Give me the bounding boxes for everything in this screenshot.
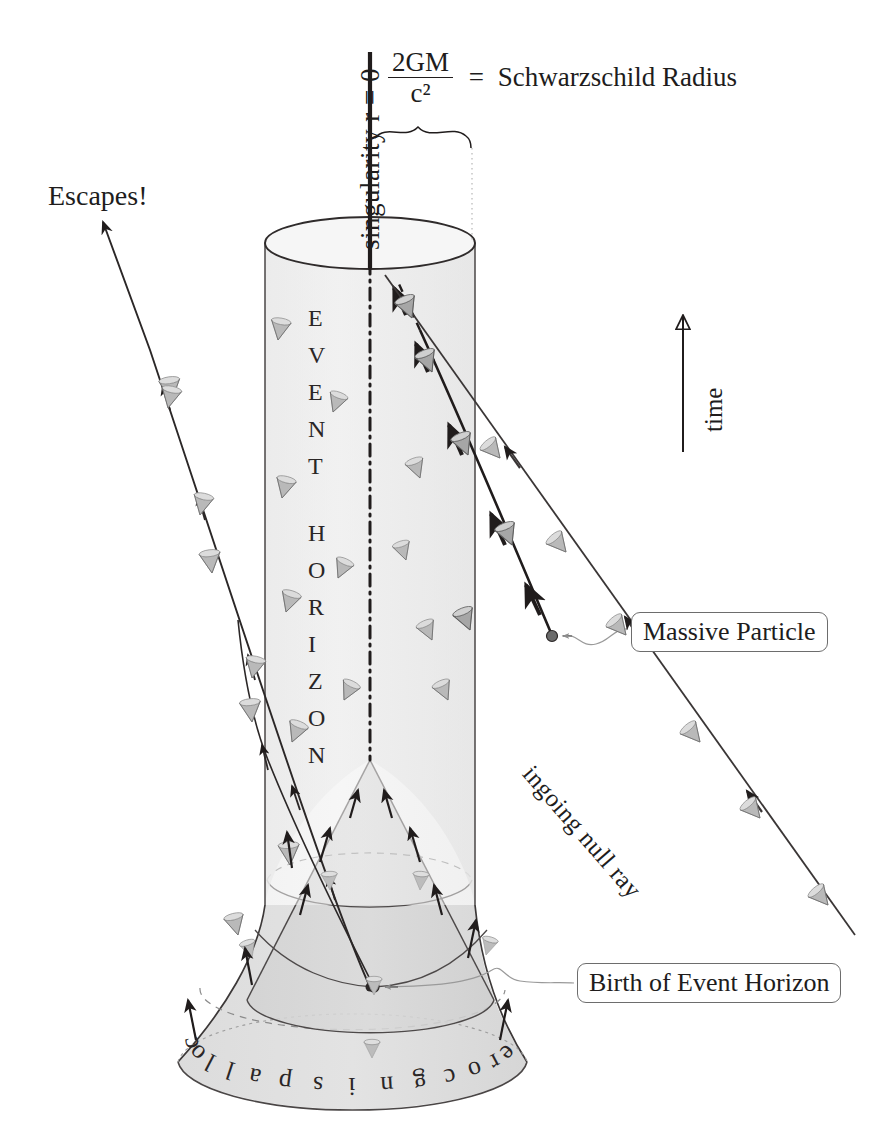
event-horizon-letter: E (308, 379, 323, 406)
event-horizon-letter: Z (308, 668, 323, 695)
schwarzschild-formula: 2GM c² = Schwarzschild Radius (388, 48, 737, 107)
formula-numerator: 2GM (388, 48, 453, 77)
event-horizon-letter: H (308, 520, 325, 547)
event-horizon-letter: V (308, 342, 325, 369)
event-horizon-letter: T (308, 453, 323, 480)
event-horizon-letter: N (308, 742, 325, 769)
collapsing-core-letter: n (380, 1070, 395, 1101)
collapsing-core-letter: s (312, 1070, 324, 1101)
event-horizon-letter: E (308, 305, 323, 332)
schwarzschild-radius-label: Schwarzschild Radius (498, 62, 737, 93)
schwarzschild-fraction: 2GM c² (388, 48, 453, 107)
event-horizon-letter: I (308, 631, 316, 658)
figure-canvas: singularity r = 0 2GM c² = Schwarzschild… (0, 0, 879, 1143)
event-horizon-letter: N (308, 416, 325, 443)
escapes-label: Escapes! (48, 180, 148, 212)
singularity-label: singularity r = 0 (355, 68, 386, 250)
event-horizon-letter: R (308, 594, 324, 621)
collapsing-core-letter: i (349, 1071, 356, 1101)
event-horizon-letter: O (308, 557, 325, 584)
event-horizon-letter: O (308, 705, 325, 732)
massive-particle-label: Massive Particle (631, 612, 828, 652)
equals-sign: = (460, 62, 491, 93)
formula-denominator: c² (388, 77, 453, 108)
time-axis-label: time (700, 388, 728, 432)
birth-of-event-horizon-label: Birth of Event Horizon (577, 963, 841, 1003)
